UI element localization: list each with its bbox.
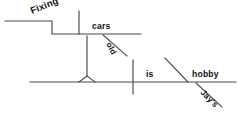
pedestal-triangle	[79, 76, 95, 82]
diagram-canvas: Fixing cars old is hobby Jay's	[0, 0, 247, 115]
label-hobby: hobby	[192, 69, 219, 79]
label-is: is	[146, 69, 154, 79]
label-fixing: Fixing	[29, 0, 60, 16]
predicate-slant-divider	[165, 58, 188, 82]
gerund-step-line	[5, 21, 141, 34]
sentence-diagram: Fixing cars old is hobby Jay's	[0, 0, 247, 115]
label-cars: cars	[92, 21, 111, 31]
label-old: old	[104, 41, 118, 57]
label-jays: Jay's	[199, 88, 221, 110]
